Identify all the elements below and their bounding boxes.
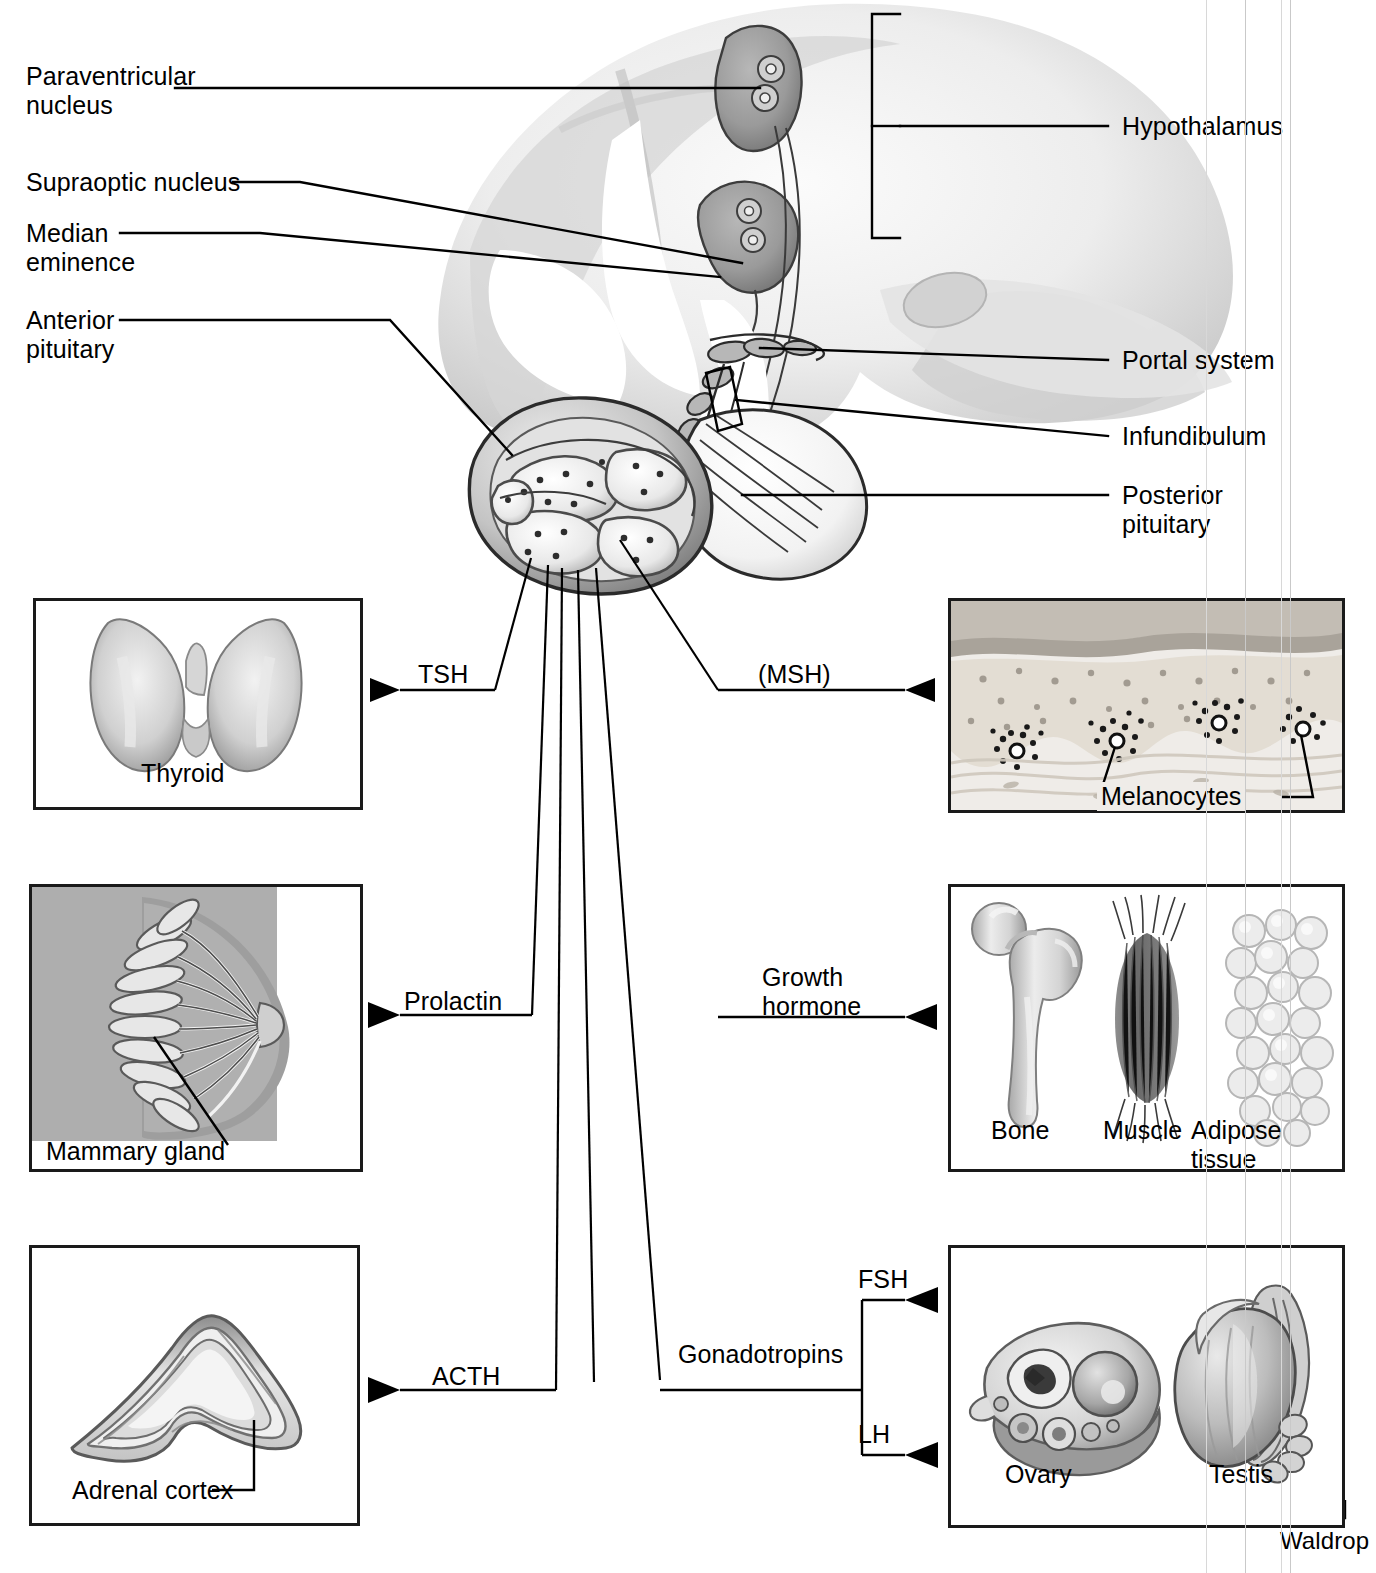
caption-ovary: Ovary <box>1005 1460 1072 1489</box>
caption-adrenal-cortex: Adrenal cortex <box>72 1476 233 1505</box>
panel-tissues: Bone Muscle Adipose tissue <box>948 884 1345 1172</box>
label-acth: ACTH <box>432 1362 500 1391</box>
caption-testis: Testis <box>1209 1460 1273 1489</box>
panel-skin: Melanocytes <box>948 598 1345 813</box>
artist-signature: Waldrop <box>1280 1527 1369 1555</box>
label-median-eminence: Median eminence <box>26 219 135 277</box>
caption-thyroid: Thyroid <box>141 759 224 788</box>
scan-artifact-line <box>1290 0 1291 1573</box>
caption-melanocytes: Melanocytes <box>1097 782 1245 811</box>
panel-adrenal: Adrenal cortex <box>29 1245 360 1526</box>
scan-artifact-line <box>1281 0 1282 1573</box>
label-tsh: TSH <box>418 660 468 689</box>
caption-mammary-gland: Mammary gland <box>46 1137 225 1166</box>
panel-breast: Mammary gland <box>29 884 363 1172</box>
label-portal-system: Portal system <box>1122 346 1275 375</box>
scan-artifact-line <box>1206 0 1207 1573</box>
label-prolactin: Prolactin <box>404 987 502 1016</box>
label-supraoptic-nucleus: Supraoptic nucleus <box>26 168 240 197</box>
label-anterior-pituitary: Anterior pituitary <box>26 306 114 364</box>
label-gonadotropins: Gonadotropins <box>678 1340 843 1369</box>
melanocyte-micrograph <box>951 601 1342 810</box>
label-growth-hormone: Growth hormone <box>762 963 861 1021</box>
figure-canvas: Paraventricular nucleus Supraoptic nucle… <box>0 0 1376 1573</box>
caption-muscle: Muscle <box>1103 1116 1182 1145</box>
panel-thyroid: Thyroid <box>33 598 363 810</box>
label-lh: LH <box>858 1420 890 1449</box>
label-hypothalamus: Hypothalamus <box>1122 112 1283 141</box>
label-posterior-pituitary: Posterior pituitary <box>1122 481 1223 539</box>
panel-gonads: Ovary Testis <box>948 1245 1345 1528</box>
label-fsh: FSH <box>858 1265 908 1294</box>
label-paraventricular-nucleus: Paraventricular nucleus <box>26 62 196 120</box>
label-msh: (MSH) <box>758 660 831 689</box>
caption-adipose-tissue: Adipose tissue <box>1191 1116 1342 1174</box>
mammary-gland-illustration <box>32 887 360 1169</box>
caption-bone: Bone <box>991 1116 1049 1145</box>
scan-artifact-line <box>1245 0 1246 1573</box>
